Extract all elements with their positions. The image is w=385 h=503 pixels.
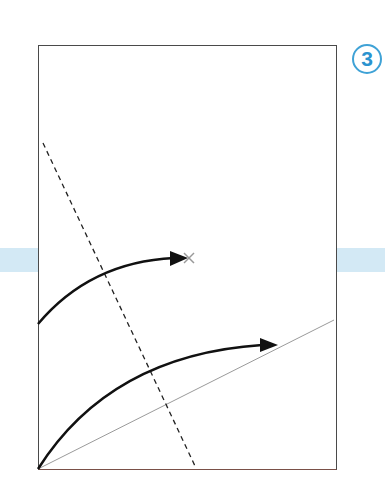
upper-curved-arrow: [38, 258, 174, 324]
dashed-line: [43, 143, 195, 466]
step-number-badge: 3: [352, 44, 382, 74]
diagram-canvas: [0, 0, 385, 503]
lower-curved-arrow: [38, 345, 262, 469]
